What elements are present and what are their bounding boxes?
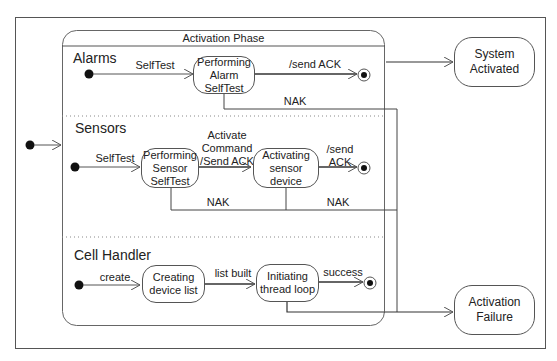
transition-label-alarm-selftest: SelfTest — [125, 59, 185, 72]
transition-label-sensor-send-ack: /send ACK — [323, 143, 357, 169]
sensors-initial-pseudostate — [71, 163, 80, 172]
transition-label-alarm-send-ack: /send ACK — [280, 58, 350, 71]
cell-initial-pseudostate — [75, 281, 84, 290]
state-activating-sensor-device[interactable]: Activating sensor device — [253, 148, 319, 188]
state-performing-alarm-selftest[interactable]: Performing Alarm SelfTest — [193, 56, 255, 94]
alarms-initial-pseudostate — [85, 70, 94, 79]
state-activation-failure[interactable]: Activation Failure — [454, 285, 535, 335]
region-title-alarms: Alarms — [73, 50, 117, 66]
transition-label-list-built: list built — [210, 267, 256, 280]
transition-label-alarm-nak: NAK — [275, 95, 315, 108]
region-title-cell-handler: Cell Handler — [74, 247, 151, 263]
state-diagram: Activation Phase Alarms Sensors Cell Han… — [0, 0, 557, 361]
transition-label-sensor-nak-2: NAK — [318, 196, 358, 209]
state-system-activated[interactable]: System Activated — [454, 37, 535, 87]
transition-label-activate-command: Activate Command /Send ACK — [199, 129, 255, 168]
state-creating-device-list[interactable]: Creating device list — [142, 265, 205, 303]
region-title-sensors: Sensors — [75, 120, 126, 136]
transition-label-create: create — [95, 271, 135, 284]
state-initiating-thread-loop[interactable]: Initiating thread loop — [256, 264, 319, 302]
composite-state-title: Activation Phase — [62, 32, 385, 44]
transition-label-sensor-selftest: SelfTest — [90, 152, 140, 165]
top-initial-pseudostate — [26, 141, 35, 150]
state-performing-sensor-selftest[interactable]: Performing Sensor SelfTest — [141, 148, 199, 188]
transition-label-sensor-nak-1: NAK — [198, 196, 238, 209]
transition-label-success: success — [321, 266, 365, 279]
